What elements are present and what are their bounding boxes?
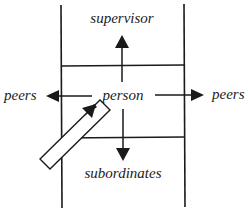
org-relationship-diagram: supervisor person peers peers subordinat…	[0, 0, 248, 215]
left-boundary-line	[61, 5, 62, 208]
hollow-diagonal-arrow-icon	[40, 100, 110, 169]
right-boundary-line	[184, 4, 185, 207]
label-supervisor: supervisor	[90, 10, 153, 26]
label-peers-left: peers	[3, 87, 37, 103]
arrow-up-icon	[115, 35, 129, 82]
label-peers-right: peers	[211, 86, 245, 102]
label-person: person	[102, 87, 144, 103]
arrow-right-icon	[155, 89, 204, 101]
arrow-down-icon	[116, 109, 130, 161]
label-subordinates: subordinates	[85, 165, 162, 181]
arrow-left-icon	[46, 90, 92, 102]
